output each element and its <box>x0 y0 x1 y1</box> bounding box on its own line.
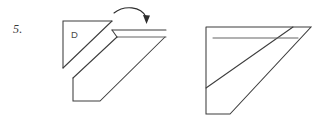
right-inner-diagonal <box>206 27 293 88</box>
worksheet-figure-canvas: 5. D <box>0 0 323 132</box>
right-figure-group <box>206 27 311 114</box>
triangle-d-fold-diagonal <box>63 21 112 68</box>
fold-arrow-head-icon <box>143 15 150 24</box>
fold-arrow-curve <box>114 8 146 17</box>
left-body-diagonal <box>73 37 117 78</box>
left-body-outline <box>73 37 165 101</box>
left-figure-group <box>63 21 166 101</box>
fold-arrow-group <box>114 8 150 24</box>
strip-left-edge <box>112 30 117 37</box>
right-figure-outline <box>206 27 311 114</box>
geometry-diagram <box>0 0 323 132</box>
